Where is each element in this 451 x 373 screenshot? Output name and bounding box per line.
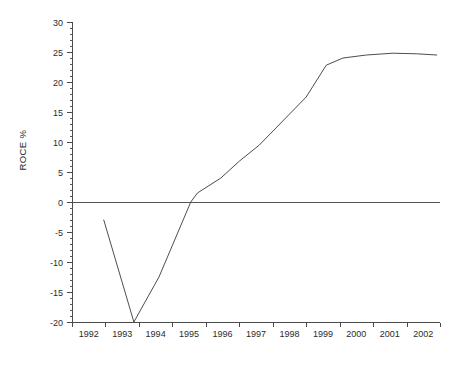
x-axis-tick-label: 1999 (313, 329, 333, 339)
y-axis-tick-label: 10 (53, 138, 63, 148)
x-axis-tick-label: 1994 (146, 329, 166, 339)
y-axis-tick-label: 20 (53, 78, 63, 88)
y-axis-tick-label: 15 (53, 108, 63, 118)
roce-line-chart: -20-15-10-5051015202530 1992199319941995… (0, 0, 451, 373)
y-axis-tick-label: -10 (50, 258, 63, 268)
plot-background (0, 0, 451, 373)
x-axis-tick-label: 2001 (380, 329, 400, 339)
x-axis-tick-label: 1997 (246, 329, 266, 339)
y-axis-title-label: ROCE % (17, 129, 28, 170)
x-axis-tick-label: 1993 (112, 329, 132, 339)
chart-canvas: -20-15-10-5051015202530 1992199319941995… (0, 0, 451, 373)
y-axis-tick-label: -15 (50, 288, 63, 298)
x-axis-tick-label: 2000 (346, 329, 366, 339)
x-axis-tick-label: 2002 (413, 329, 433, 339)
y-axis-tick-label: 5 (58, 168, 63, 178)
y-axis-title: ROCE % (17, 129, 28, 170)
y-axis-tick-label: 30 (53, 18, 63, 28)
x-axis-tick-label: 1996 (213, 329, 233, 339)
y-axis-tick-label: 0 (58, 198, 63, 208)
y-axis-tick-label: -5 (55, 228, 63, 238)
y-axis-tick-label: -20 (50, 318, 63, 328)
y-axis-tick-label: 25 (53, 48, 63, 58)
x-axis-tick-label: 1995 (179, 329, 199, 339)
x-axis-tick-label: 1998 (279, 329, 299, 339)
x-axis-tick-label: 1992 (79, 329, 99, 339)
